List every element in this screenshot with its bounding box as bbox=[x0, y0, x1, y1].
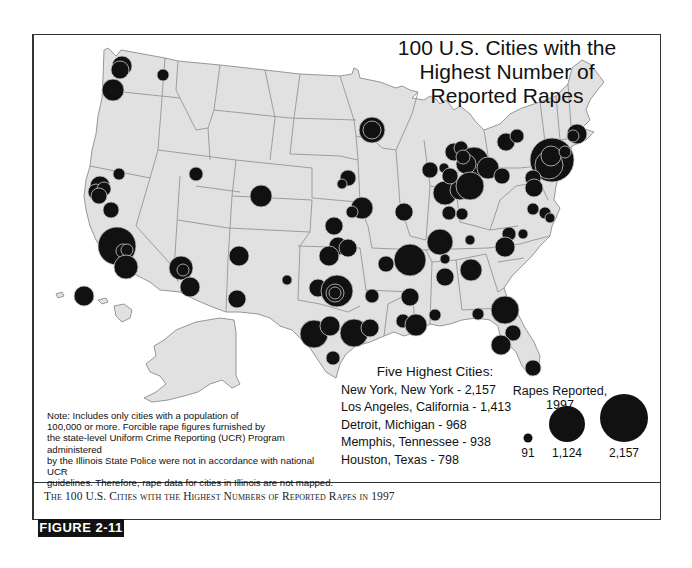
note-line: the state-level Uniform Crime Reporting … bbox=[47, 432, 337, 454]
five-highest-cities: Five Highest Cities: New York, New York … bbox=[341, 363, 521, 469]
top-city-item: Los Angeles, California - 1,413 bbox=[341, 399, 521, 417]
legend-label-large: 2,157 bbox=[594, 446, 654, 460]
legend-title-line: Rapes Reported, bbox=[510, 384, 610, 398]
caption-text: The 100 U.S. Cities with the Highest Num… bbox=[44, 490, 395, 502]
legend-title-line: 1997 bbox=[510, 398, 610, 412]
top-city-item: Detroit, Michigan - 968 bbox=[341, 417, 521, 435]
figure-number-tag: FIGURE 2-11 bbox=[38, 519, 124, 537]
note-text: Note: Includes only cities with a popula… bbox=[47, 410, 337, 488]
map-title: 100 U.S. Cities with the Highest Number … bbox=[372, 36, 642, 108]
five-highest-heading: Five Highest Cities: bbox=[349, 363, 521, 381]
title-line: Highest Number of bbox=[372, 60, 642, 84]
note-line: 100,000 or more. Forcible rape figures f… bbox=[47, 421, 337, 432]
legend-title: Rapes Reported, 1997 bbox=[510, 384, 610, 412]
title-line: 100 U.S. Cities with the bbox=[372, 36, 642, 60]
note-line: guidelines. Therefore, rape data for cit… bbox=[47, 477, 337, 488]
top-city-item: Houston, Texas - 798 bbox=[341, 452, 521, 470]
note-line: by the Illinois State Police were not in… bbox=[47, 455, 337, 477]
note-line: Note: Includes only cities with a popula… bbox=[47, 410, 337, 421]
figure-caption: The 100 U.S. Cities with the Highest Num… bbox=[44, 490, 395, 502]
legend-label-medium: 1,124 bbox=[537, 446, 597, 460]
title-line: Reported Rapes bbox=[372, 84, 642, 108]
top-city-item: Memphis, Tennessee - 938 bbox=[341, 434, 521, 452]
top-city-item: New York, New York - 2,157 bbox=[341, 382, 521, 400]
